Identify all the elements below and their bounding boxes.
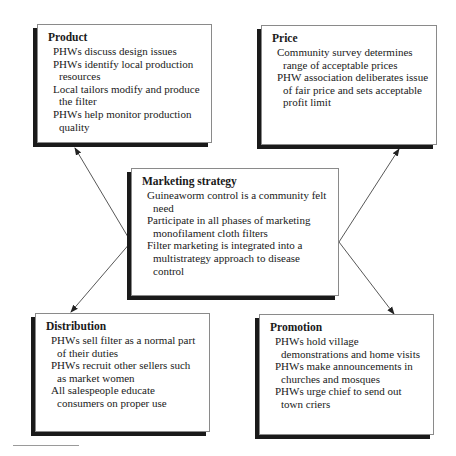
distribution-list: PHWs sell filter as a normal part of the… [46,334,201,410]
promotion-title: Promotion [270,321,425,334]
price-box: Price Community survey determines range … [261,25,437,145]
promotion-item: PHWs urge chief to send out town criers [275,385,425,410]
strategy-item: Participate in all phases of marketing m… [147,214,330,239]
marketing-strategy-title: Marketing strategy [142,175,330,188]
promotion-box: Promotion PHWs hold village demonstratio… [259,314,434,435]
product-item: PHWs identify local production resources [53,58,203,83]
price-item: Community survey determines range of acc… [277,46,428,71]
product-box: Product PHWs discuss design issues PHWs … [37,24,212,143]
strategy-item: Guineaworm control is a community felt n… [147,189,330,214]
promotion-item: PHWs hold village demonstrations and hom… [275,335,425,360]
price-item: PHW association deliberates issue of fai… [277,71,428,109]
arrow-to-distribution [71,242,131,312]
product-item: Local tailors modify and produce the fil… [53,83,203,108]
arrow-to-price [339,149,399,242]
distribution-item: PHWs sell filter as a normal part of the… [51,334,201,359]
strategy-item: Filter marketing is integrated into a mu… [147,239,330,277]
promotion-item: PHWs make announcements in churches and … [275,360,425,385]
promotion-list: PHWs hold village demonstrations and hom… [270,335,425,411]
arrow-to-promotion [339,242,394,314]
distribution-item: PHWs recruit other sellers such as marke… [51,359,201,384]
product-item: PHWs discuss design issues [53,45,203,58]
marketing-strategy-box: Marketing strategy Guineaworm control is… [131,168,339,296]
marketing-strategy-list: Guineaworm control is a community felt n… [142,189,330,277]
distribution-box: Distribution PHWs sell filter as a norma… [35,313,210,432]
distribution-title: Distribution [46,320,201,333]
arrow-to-product [75,148,131,242]
product-item: PHWs help monitor production quality [53,108,203,133]
price-list: Community survey determines range of acc… [272,46,428,109]
distribution-item: All salespeople educate consumers on pro… [51,384,201,409]
price-title: Price [272,32,428,45]
footnote-rule [13,445,79,446]
product-title: Product [48,31,203,44]
product-list: PHWs discuss design issues PHWs identify… [48,45,203,133]
